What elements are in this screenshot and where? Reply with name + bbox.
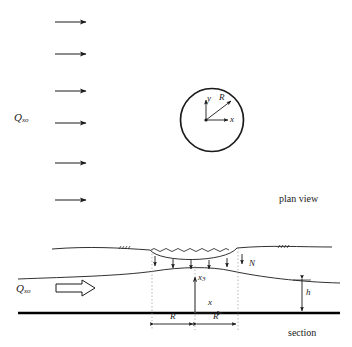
basin-axis-x-label: x [230, 114, 234, 124]
basin-origin-dot-plan [204, 118, 207, 121]
basin-radius-label: R [219, 92, 225, 102]
basin-water-surface [151, 249, 229, 252]
half-width-label-left: R [170, 311, 176, 321]
recharge-arrows [155, 254, 242, 269]
figure-container: Qxo y R x plan view Qxo N x3 x h R R sec… [0, 0, 352, 347]
half-width-label-right: R [213, 311, 219, 321]
recharge-rate-label: N [249, 258, 255, 268]
ground-surface-left [52, 247, 150, 250]
section-view-caption: section [288, 327, 316, 338]
section-flow-label: Qxo [16, 282, 31, 295]
aquifer-thickness-label: h [306, 287, 311, 297]
figure-drawing [0, 0, 352, 347]
plan-view-caption: plan view [279, 193, 318, 204]
plan-flow-label: Qxo [14, 111, 29, 124]
section-axis-vertical-label: x3 [198, 272, 206, 283]
section-axis-horizontal-label: x [208, 297, 212, 307]
plan-flow-arrows [55, 22, 86, 200]
section-flow-arrow [56, 280, 95, 296]
basin-axis-y-label: y [207, 93, 211, 103]
basin-axes-plan [206, 100, 231, 120]
water-table-curve [18, 268, 340, 283]
